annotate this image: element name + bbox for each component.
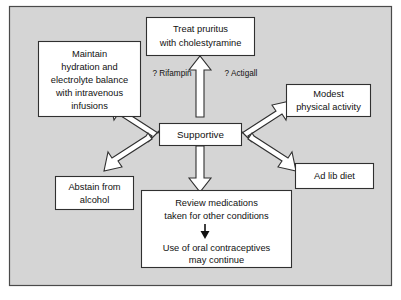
node-review-medications-line-4: may continue (189, 255, 244, 265)
hub-supportive-label: Supportive (177, 129, 224, 140)
edge-label-rifampin: ? Rifampin (152, 69, 192, 78)
node-maintain-hydration-line-5: infusions (71, 101, 108, 111)
node-maintain-hydration-line-1: Maintain (72, 49, 107, 59)
node-review-medications-line-3: Use of oral contraceptives (163, 243, 271, 253)
node-maintain-hydration-line-4: with intravenous (55, 88, 124, 98)
node-review-medications-line-1: Review medications (175, 198, 258, 208)
node-review-medications-line-2: taken for other conditions (164, 211, 269, 221)
node-modest-activity-line-2: physical activity (296, 102, 361, 112)
edge-label-actigall: ? Actigall (225, 69, 258, 78)
node-abstain-alcohol-line-2: alcohol (80, 195, 109, 205)
node-maintain-hydration-line-3: electrolyte balance (51, 75, 129, 85)
node-maintain-hydration-line-2: hydration and (61, 62, 117, 72)
node-ad-lib-diet-label: Ad lib diet (314, 171, 355, 181)
diagram-root: Supportive Treat pruritus with cholestyr… (0, 0, 401, 300)
node-treat-pruritus-line-2: with cholestyramine (159, 38, 242, 48)
node-modest-activity-line-1: Modest (313, 89, 344, 99)
node-treat-pruritus-line-1: Treat pruritus (173, 24, 228, 34)
diagram-canvas: Supportive Treat pruritus with cholestyr… (0, 0, 401, 300)
node-abstain-alcohol-line-1: Abstain from (68, 182, 120, 192)
